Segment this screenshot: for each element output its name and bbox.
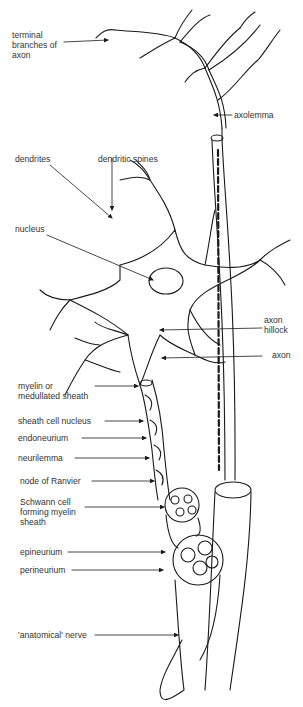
label-perineurium: perineurium [20, 565, 65, 575]
ascending-axon [211, 128, 235, 480]
label-anatomical-nerve: 'anatomical' nerve [18, 630, 87, 640]
nucleus-shape [149, 268, 183, 294]
neuron-diagram [0, 0, 303, 707]
label-node-of-ranvier: node of Ranvier [20, 476, 81, 486]
label-endoneurium: endoneurium [18, 433, 68, 443]
label-dendritic-spines: dendritic spines [98, 154, 158, 164]
label-myelin-sheath: myelin or medullated sheath [18, 381, 88, 401]
dendrites [40, 160, 290, 395]
nerve-bundles [160, 482, 251, 699]
label-axon-hillock: axon hillock [264, 315, 288, 335]
label-terminal-branches: terminal branches of axon [12, 30, 57, 60]
leader-lines [47, 40, 262, 635]
label-nucleus: nucleus [15, 224, 45, 234]
label-dendrites: dendrites [15, 154, 50, 164]
label-axon: axon [272, 350, 291, 360]
label-neurilemma: neurilemma [18, 453, 63, 463]
label-schwann-cell: Schwann cell forming myelin sheath [20, 497, 76, 527]
label-axolemma: axolemma [234, 110, 274, 120]
label-epineurium: epineurium [20, 547, 63, 557]
cell-body [70, 230, 260, 385]
descending-axon [140, 380, 170, 500]
label-sheath-cell-nucleus: sheath cell nucleus [18, 416, 91, 426]
